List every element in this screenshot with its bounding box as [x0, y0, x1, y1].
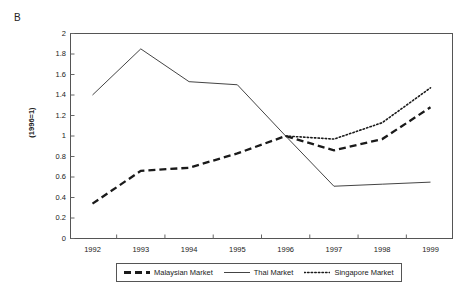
y-axis-title: (1996=1) [27, 83, 36, 163]
y-axis-tick-label: 1.4 [38, 91, 66, 99]
x-axis-tick-label: 1992 [73, 246, 113, 254]
x-axis-tick-label: 1997 [314, 246, 354, 254]
y-axis-tick-label: 1.2 [38, 112, 66, 120]
series-line [286, 88, 431, 139]
series-line [93, 107, 431, 203]
legend-swatch-dashed [124, 269, 150, 276]
series-line [93, 49, 431, 186]
y-axis-tick-label: 0.8 [38, 153, 66, 161]
x-axis-tick-label: 1993 [121, 246, 161, 254]
y-axis-tick-label: 1.8 [38, 50, 66, 58]
x-axis-tick-label: 1998 [362, 246, 402, 254]
y-axis-tick-label: 0 [38, 235, 66, 243]
y-axis-tick-label: 0.6 [38, 173, 66, 181]
series-lines [93, 49, 431, 204]
legend-entry: Thai Market [224, 268, 294, 277]
x-axis-tick-label: 1995 [217, 246, 257, 254]
x-axis-tick-label: 1999 [411, 246, 451, 254]
legend-entry: Malaysian Market [124, 268, 213, 277]
chart-legend: Malaysian MarketThai MarketSingapore Mar… [116, 263, 402, 282]
y-axis-tick-label: 2 [38, 30, 66, 38]
y-axis-tick-label: 0.4 [38, 194, 66, 202]
legend-swatch-dotted [304, 269, 330, 276]
panel-label: B [14, 12, 21, 23]
x-axis-tick-label: 1994 [169, 246, 209, 254]
x-axis-ticks [117, 235, 407, 239]
x-axis-tick-label: 1996 [266, 246, 306, 254]
plot-frame [71, 34, 453, 239]
y-axis-tick-label: 1 [38, 132, 66, 140]
legend-label: Singapore Market [334, 268, 393, 277]
y-axis-tick-label: 0.2 [38, 214, 66, 222]
y-axis-ticks [71, 34, 75, 239]
y-axis-tick-label: 1.6 [38, 71, 66, 79]
legend-entry: Singapore Market [304, 268, 393, 277]
legend-label: Thai Market [254, 268, 294, 277]
legend-label: Malaysian Market [154, 268, 213, 277]
chart-figure: B (1996=1) 00.20.40.60.811.21.41.61.82 1… [0, 0, 470, 293]
legend-swatch-solid [224, 269, 250, 276]
